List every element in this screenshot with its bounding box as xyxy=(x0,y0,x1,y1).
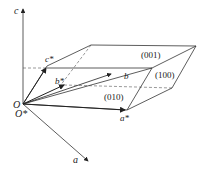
label-plane-010: (010) xyxy=(104,92,124,102)
label-c-star: c* xyxy=(45,54,54,64)
b-vector xyxy=(23,74,111,104)
label-O-star: O* xyxy=(15,108,27,119)
dashed-line xyxy=(60,45,91,86)
lattice-diagram: c c* b* b O O* a a* (001) (100) (010) xyxy=(0,0,204,176)
label-b: b xyxy=(124,71,129,81)
label-plane-001: (001) xyxy=(141,50,161,60)
a-axis xyxy=(23,104,88,161)
label-b-star: b* xyxy=(55,76,65,86)
dashed-line xyxy=(64,85,172,88)
label-plane-100: (100) xyxy=(155,70,175,80)
label-c: c xyxy=(14,5,19,16)
label-a: a xyxy=(73,154,78,165)
a-star-vector xyxy=(23,104,125,110)
label-a-star: a* xyxy=(120,113,130,123)
